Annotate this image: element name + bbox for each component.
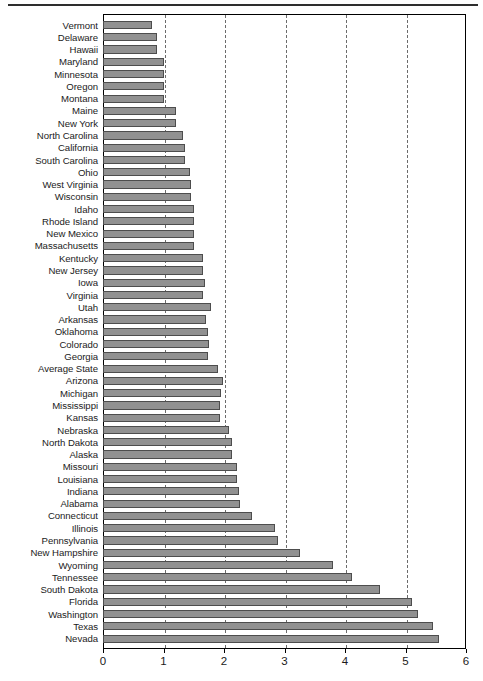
- y-label-indiana: Indiana: [0, 485, 98, 498]
- bar: [103, 303, 211, 311]
- bar: [103, 180, 191, 188]
- y-label-ohio: Ohio: [0, 166, 98, 179]
- x-tick-label-1: 1: [160, 655, 166, 667]
- y-label-south-dakota: South Dakota: [0, 583, 98, 596]
- bar-row: [103, 129, 466, 142]
- y-label-massachusetts: Massachusetts: [0, 239, 98, 252]
- bar: [103, 119, 176, 127]
- bar-row: [103, 80, 466, 93]
- x-tick-mark-1: [164, 649, 165, 653]
- x-tick-mark-3: [285, 649, 286, 653]
- bar: [103, 156, 185, 164]
- bar-row: [103, 473, 466, 486]
- bar: [103, 131, 183, 139]
- bar: [103, 107, 176, 115]
- bar: [103, 549, 300, 557]
- y-label-virginia: Virginia: [0, 289, 98, 302]
- bar-row: [103, 411, 466, 424]
- y-label-pennsylvania: Pennsylvania: [0, 534, 98, 547]
- y-label-new-jersey: New Jersey: [0, 264, 98, 277]
- bar: [103, 450, 232, 458]
- bar-row: [103, 424, 466, 437]
- bar-row: [103, 301, 466, 314]
- x-tick-mark-2: [224, 649, 225, 653]
- bar-row: [103, 154, 466, 167]
- bar: [103, 328, 208, 336]
- y-label-nevada: Nevada: [0, 632, 98, 645]
- bar: [103, 33, 157, 41]
- bar: [103, 524, 275, 532]
- bar-row: [103, 362, 466, 375]
- bar-row: [103, 43, 466, 56]
- bar: [103, 144, 185, 152]
- y-label-wyoming: Wyoming: [0, 559, 98, 572]
- bar: [103, 536, 278, 544]
- y-label-mississippi: Mississippi: [0, 399, 98, 412]
- bar-row: [103, 546, 466, 559]
- bar: [103, 340, 209, 348]
- y-label-florida: Florida: [0, 595, 98, 608]
- bar: [103, 70, 164, 78]
- bar: [103, 21, 152, 29]
- y-label-oregon: Oregon: [0, 80, 98, 93]
- y-label-tennessee: Tennessee: [0, 571, 98, 584]
- bar-row: [103, 338, 466, 351]
- y-label-idaho: Idaho: [0, 203, 98, 216]
- bar: [103, 352, 208, 360]
- bar-row: [103, 608, 466, 621]
- x-axis-ticks: 0123456: [103, 649, 466, 675]
- bar-row: [103, 448, 466, 461]
- x-tick-label-0: 0: [100, 655, 106, 667]
- bar: [103, 401, 220, 409]
- bar: [103, 45, 157, 53]
- bar-row: [103, 31, 466, 44]
- bar: [103, 254, 203, 262]
- bar-row: [103, 252, 466, 265]
- y-label-new-hampshire: New Hampshire: [0, 546, 98, 559]
- y-label-utah: Utah: [0, 301, 98, 314]
- y-label-michigan: Michigan: [0, 387, 98, 400]
- bar-row: [103, 374, 466, 387]
- bar-row: [103, 436, 466, 449]
- header-rule: [8, 4, 478, 6]
- bar-row: [103, 19, 466, 32]
- bar: [103, 266, 203, 274]
- bar: [103, 389, 221, 397]
- bar-row: [103, 289, 466, 302]
- bar-series: [103, 14, 466, 649]
- bar-row: [103, 497, 466, 510]
- bar: [103, 463, 237, 471]
- bar-row: [103, 92, 466, 105]
- bar-row: [103, 534, 466, 547]
- bar: [103, 315, 206, 323]
- bar-row: [103, 583, 466, 596]
- bar: [103, 573, 352, 581]
- x-tick-mark-6: [466, 649, 467, 653]
- y-label-hawaii: Hawaii: [0, 43, 98, 56]
- y-label-north-dakota: North Dakota: [0, 436, 98, 449]
- bar: [103, 622, 433, 630]
- bar: [103, 610, 418, 618]
- bar: [103, 230, 194, 238]
- bar: [103, 512, 252, 520]
- bar: [103, 168, 190, 176]
- y-label-delaware: Delaware: [0, 31, 98, 44]
- bar: [103, 500, 240, 508]
- bar: [103, 414, 220, 422]
- bar-row: [103, 203, 466, 216]
- bar-row: [103, 215, 466, 228]
- bar-row: [103, 166, 466, 179]
- y-label-colorado: Colorado: [0, 338, 98, 351]
- y-axis-category-labels: VermontDelawareHawaiiMarylandMinnesotaOr…: [0, 14, 98, 649]
- y-label-missouri: Missouri: [0, 460, 98, 473]
- y-label-montana: Montana: [0, 92, 98, 105]
- y-label-georgia: Georgia: [0, 350, 98, 363]
- bar: [103, 585, 380, 593]
- y-label-average-state: Average State: [0, 362, 98, 375]
- bar-row: [103, 264, 466, 277]
- y-label-nebraska: Nebraska: [0, 424, 98, 437]
- y-label-maryland: Maryland: [0, 55, 98, 68]
- x-tick-mark-0: [103, 649, 104, 653]
- bar-row: [103, 276, 466, 289]
- x-tick-mark-4: [345, 649, 346, 653]
